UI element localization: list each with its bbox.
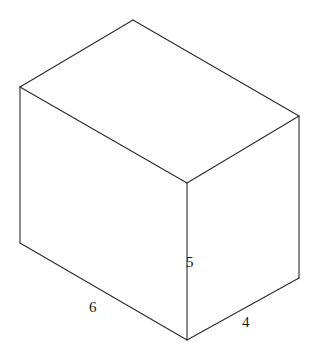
dimension-label-height: 5 — [186, 255, 194, 270]
dimension-label-length: 6 — [89, 300, 97, 315]
dimension-label-width: 4 — [242, 315, 250, 330]
prism-figure: 5 6 4 — [0, 0, 316, 362]
prism-drawing — [0, 0, 316, 362]
